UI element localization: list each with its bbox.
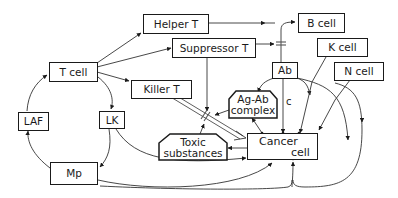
- node-laf: LAF: [18, 112, 49, 131]
- edge-tcell-killer: [97, 72, 129, 81]
- k-cell-label: K cell: [328, 42, 356, 53]
- edge-cancer-agab: [252, 118, 262, 133]
- edge-mp-cancer: [98, 163, 272, 187]
- node-helper-t: Helper T: [143, 14, 209, 34]
- ab-label: Ab: [278, 65, 292, 76]
- killer-t-label: Killer T: [143, 84, 179, 95]
- node-n-cell: N cell: [334, 62, 384, 81]
- cancer-cell-label-line2: cell: [291, 146, 310, 159]
- edge-bottom-left: [100, 180, 292, 189]
- edge-mp-laf: [28, 131, 50, 168]
- node-suppressor-t: Suppressor T: [172, 38, 256, 58]
- edge-laf-tcell: [27, 75, 47, 111]
- suppressor-t-label: Suppressor T: [180, 43, 249, 54]
- node-t-cell: T cell: [49, 62, 98, 82]
- edge-tcell-helper: [97, 33, 141, 63]
- node-killer-t: Killer T: [131, 80, 192, 99]
- node-b-cell: B cell: [298, 13, 345, 33]
- edge-agab-inhibit: [215, 110, 229, 115]
- mp-label: Mp: [66, 168, 82, 179]
- toxic-substances-label: Toxic substances: [158, 134, 228, 161]
- b-cell-label: B cell: [307, 18, 336, 29]
- node-k-cell: K cell: [317, 38, 368, 57]
- edge-lk-mp: [100, 129, 110, 167]
- edge-label-c: c: [286, 96, 292, 107]
- edge-tcell-lk: [98, 77, 112, 109]
- t-cell-label: T cell: [60, 67, 88, 78]
- node-mp: Mp: [50, 162, 98, 185]
- n-cell-label: N cell: [344, 66, 373, 77]
- laf-label: LAF: [24, 116, 43, 127]
- lk-label: LK: [106, 115, 119, 126]
- edge-ab-long: [297, 78, 348, 140]
- edge-cancer-bottom: [292, 162, 293, 187]
- node-ab: Ab: [272, 62, 298, 79]
- helper-t-label: Helper T: [154, 19, 198, 30]
- edge-kcell-cancer: [300, 57, 326, 133]
- ag-ab-complex-label: Ag-Ab complex: [228, 91, 278, 119]
- edge-tcell-suppressor: [97, 48, 171, 67]
- node-lk: LK: [99, 111, 125, 129]
